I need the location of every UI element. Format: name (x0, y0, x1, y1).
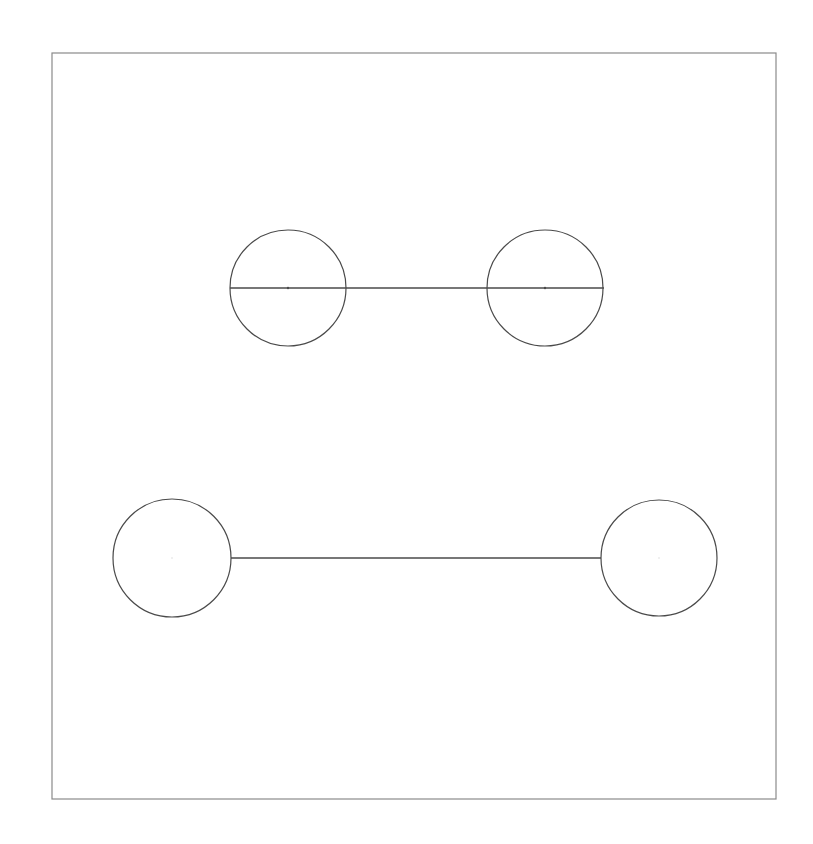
top-pair-group (230, 230, 604, 346)
center-dot (658, 557, 660, 559)
center-dot (171, 557, 173, 559)
bottom-pair-group (113, 499, 717, 617)
center-dot (544, 287, 546, 289)
diagram-canvas (0, 0, 813, 844)
center-dot (287, 287, 289, 289)
diagram-groups (113, 230, 717, 617)
diagram-frame (52, 53, 776, 799)
